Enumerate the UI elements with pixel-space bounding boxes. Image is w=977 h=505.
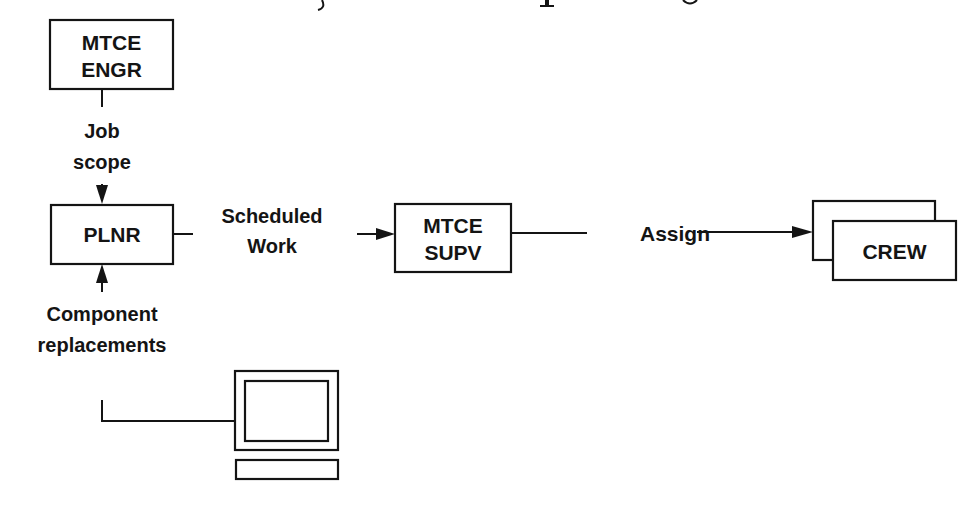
computer-connector-line	[102, 400, 235, 421]
arrowhead-right-icon	[376, 228, 395, 240]
clipped-heading-fragment	[318, 0, 697, 10]
mtce-supv-line1: MTCE	[423, 214, 483, 237]
node-mtce-supv: MTCE SUPV	[395, 204, 511, 272]
edge-assign: Assign	[511, 222, 813, 245]
node-mtce-engr: MTCE ENGR	[50, 20, 173, 89]
job-scope-label-line1: Job	[84, 120, 120, 142]
node-crew: CREW	[813, 201, 956, 280]
arrowhead-down-icon	[96, 185, 108, 204]
plnr-label: PLNR	[83, 223, 140, 246]
edge-scheduled-work: Scheduled Work	[173, 205, 395, 257]
node-plnr: PLNR	[51, 205, 173, 264]
component-replacements-label-line2: replacements	[38, 334, 167, 356]
computer-terminal-icon	[102, 371, 338, 479]
arrowhead-up-icon	[96, 264, 108, 283]
mtce-engr-line1: MTCE	[82, 31, 142, 54]
component-replacements-label-line1: Component	[46, 303, 157, 325]
scheduled-work-label-line1: Scheduled	[221, 205, 322, 227]
mtce-engr-line2: ENGR	[81, 58, 142, 81]
keyboard	[236, 460, 338, 479]
arrowhead-right-icon	[792, 226, 813, 238]
scheduled-work-label-line2: Work	[247, 235, 298, 257]
monitor-screen	[245, 381, 328, 441]
job-scope-label-line2: scope	[73, 151, 131, 173]
edge-component-replacements: Component replacements	[38, 264, 167, 356]
mtce-supv-line2: SUPV	[424, 241, 481, 264]
maintenance-workflow-diagram: MTCE ENGR Job scope PLNR Component repla…	[0, 0, 977, 505]
edge-job-scope: Job scope	[73, 89, 131, 204]
crew-label: CREW	[862, 240, 926, 263]
assign-label: Assign	[640, 222, 710, 245]
